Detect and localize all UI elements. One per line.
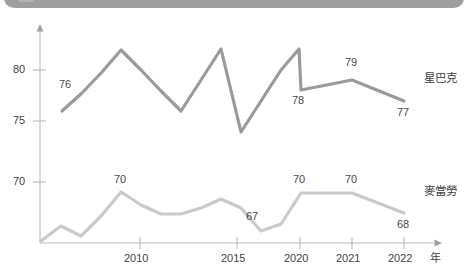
value-label-mcdonalds-2016: 67: [246, 211, 258, 222]
series-line-mcdonalds: [41, 192, 404, 241]
x-axis-unit-label: 年: [430, 253, 441, 264]
series-label-starbucks: 星巴克: [424, 73, 457, 84]
y-axis-arrow: [37, 24, 44, 32]
line-chart: [0, 0, 468, 274]
x-tick-label-2020: 2020: [284, 253, 308, 264]
value-label-starbucks-2007: 76: [59, 79, 71, 90]
value-label-mcdonalds-2011: 70: [114, 174, 126, 185]
value-label-mcdonalds-2021: 70: [345, 174, 357, 185]
series-label-mcdonalds: 麥當勞: [424, 186, 457, 197]
y-tick-label-70: 70: [13, 176, 25, 187]
x-tick-label-2015: 2015: [221, 253, 245, 264]
x-tick-label-2021: 2021: [336, 253, 360, 264]
value-label-mcdonalds-2020: 70: [293, 174, 305, 185]
y-tick-label-75: 75: [13, 115, 25, 126]
x-axis-arrow: [435, 240, 443, 247]
x-tick-label-2010: 2010: [124, 253, 148, 264]
value-label-starbucks-2022: 77: [397, 107, 409, 118]
value-label-starbucks-2021: 79: [345, 57, 357, 68]
value-label-mcdonalds-2022: 68: [397, 219, 409, 230]
value-label-starbucks-2020: 78: [292, 95, 304, 106]
x-tick-label-2022: 2022: [388, 253, 412, 264]
y-tick-label-80: 80: [13, 64, 25, 75]
